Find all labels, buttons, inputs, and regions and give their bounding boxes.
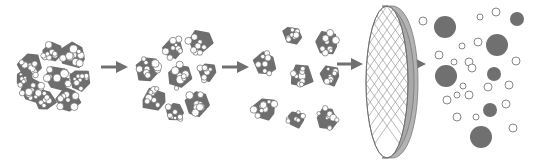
particle-cluster	[165, 104, 183, 122]
particle-cluster	[60, 43, 85, 67]
small-particle	[460, 83, 466, 89]
large-particle	[435, 65, 457, 87]
diagram-canvas	[0, 0, 542, 166]
particle-cluster	[43, 67, 71, 90]
particle-cluster	[316, 29, 339, 56]
small-particle	[435, 51, 443, 59]
particle-cluster	[70, 72, 89, 91]
particle-cluster	[250, 99, 278, 119]
particle-cluster	[186, 92, 209, 117]
particle-cluster	[283, 28, 301, 44]
mesh-filter-disc	[366, 0, 418, 158]
large-particle	[483, 103, 497, 117]
small-particle	[443, 96, 451, 104]
small-particle	[502, 100, 510, 108]
small-particle	[459, 43, 465, 49]
particle-cluster	[321, 66, 339, 85]
small-particle	[465, 91, 473, 99]
small-particle	[451, 59, 457, 65]
particle-cluster	[169, 61, 191, 90]
small-particle	[474, 38, 482, 46]
large-particle	[470, 126, 492, 148]
particle-cluster	[144, 86, 165, 109]
small-particle	[468, 64, 476, 72]
small-particle	[484, 83, 492, 91]
small-particle	[512, 57, 520, 65]
particle-cluster	[185, 31, 213, 55]
small-particle	[419, 17, 427, 25]
small-particle	[477, 14, 483, 20]
particle-cluster	[41, 42, 62, 61]
large-particle	[510, 12, 524, 26]
particle-cluster	[317, 106, 339, 131]
particle-cluster	[197, 65, 215, 83]
small-particle	[505, 81, 513, 89]
process-diagram	[0, 0, 542, 166]
large-particle	[486, 34, 508, 56]
particle-cluster	[136, 57, 162, 81]
particle-cluster	[56, 88, 80, 111]
small-particle	[454, 92, 460, 98]
small-particle	[509, 124, 517, 132]
particle-cluster	[254, 51, 275, 76]
large-particle	[434, 16, 456, 38]
particle-cluster	[290, 66, 312, 88]
particle-cluster	[286, 111, 306, 128]
dispersed-particles	[419, 8, 524, 148]
large-particle	[487, 67, 501, 81]
agglomerate-cluster	[18, 42, 89, 111]
small-particle	[453, 113, 461, 121]
particle-cluster	[162, 36, 182, 60]
particle-cluster	[34, 90, 56, 109]
clusters-stage-1	[136, 31, 215, 122]
small-particle	[492, 8, 500, 16]
clusters-stage-2	[250, 28, 339, 131]
small-particle	[473, 114, 479, 120]
